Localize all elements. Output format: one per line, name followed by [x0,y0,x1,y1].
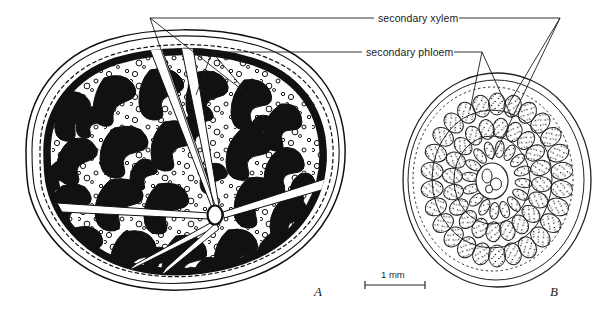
panel-letter-b: B [550,284,558,300]
panel-b-drawing [403,73,591,287]
figure-root: secondary xylem secondary phloem 1 mm A … [0,0,600,318]
label-secondary-xylem: secondary xylem [378,12,458,24]
label-secondary-phloem: secondary phloem [366,46,453,58]
scale-bar [365,281,425,289]
panel-a-drawing [20,25,360,305]
illustration-canvas [0,0,600,318]
panel-a-pith [208,206,223,225]
panel-b-pith [476,163,508,199]
scale-bar-label: 1 mm [381,269,405,280]
panel-letter-a: A [314,284,322,300]
